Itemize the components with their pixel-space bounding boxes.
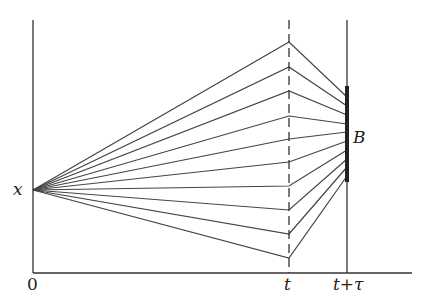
sample-paths xyxy=(33,42,347,258)
path-diagram: x 0 t t+τ B xyxy=(0,0,425,299)
sample-path-7 xyxy=(33,150,347,190)
sample-path-6 xyxy=(33,141,347,190)
sample-path-5 xyxy=(33,132,347,190)
sample-path-3 xyxy=(33,91,347,190)
start-point-label: x xyxy=(13,179,23,199)
origin-label: 0 xyxy=(27,274,38,294)
time-t-plus-tau-label: t+τ xyxy=(333,274,364,294)
time-t-label: t xyxy=(284,274,291,294)
target-set-label: B xyxy=(352,127,366,147)
